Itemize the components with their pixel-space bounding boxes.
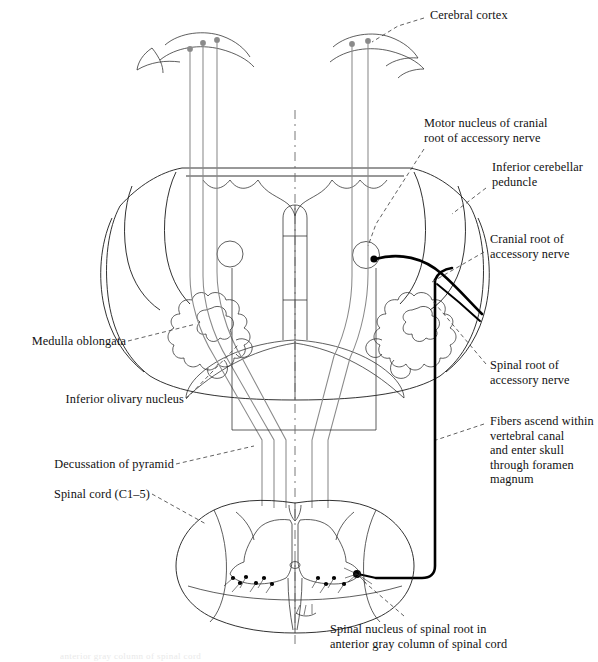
spinal-root-accessory-nerve: [344, 268, 452, 584]
label-cranial-root-accessory-nerve: Cranial root of accessory nerve: [490, 232, 570, 261]
corticospinal-fibers-left: [187, 37, 220, 158]
label-inferior-cerebellar-peduncle: Inferior cerebellar peduncle: [492, 160, 583, 189]
cranial-root-accessory-nerve: [375, 256, 482, 321]
label-decussation-of-pyramid: Decussation of pyramid: [0, 457, 174, 472]
label-spinal-root-accessory-nerve: Spinal root of accessory nerve: [490, 358, 570, 387]
anterior-horn-neurons-right: [312, 576, 346, 593]
cerebral-cortex-left: [137, 33, 254, 73]
cerebral-cortex-right: [330, 34, 424, 78]
label-spinal-cord: Spinal cord (C1–5): [0, 487, 150, 502]
label-motor-nucleus-cranial-root: Motor nucleus of cranial root of accesso…: [424, 116, 548, 145]
label-cerebral-cortex: Cerebral cortex: [430, 8, 508, 23]
cut-off-caption: anterior gray column of spinal cord: [60, 651, 540, 661]
label-inferior-olivary-nucleus: Inferior olivary nucleus: [0, 392, 184, 407]
anatomy-figure: Cerebral cortex Motor nucleus of cranial…: [0, 0, 598, 662]
motor-nucleus-cranial-root: [353, 242, 380, 269]
label-spinal-nucleus: Spinal nucleus of spinal root in anterio…: [330, 622, 507, 651]
label-fibers-ascend: Fibers ascend within vertebral canal and…: [490, 414, 594, 487]
inferior-olivary-nucleus-left: [168, 293, 252, 379]
label-medulla-oblongata: Medulla oblongata: [0, 334, 126, 349]
anterior-horn-neurons-left: [224, 575, 274, 593]
anatomy-drawing: [0, 0, 598, 662]
corticospinal-fibers-right: [349, 38, 371, 158]
